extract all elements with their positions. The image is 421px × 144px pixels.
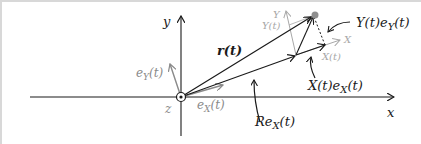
label-r: r(t) [217, 43, 242, 58]
label-XeX: X(t)eX(t) [307, 78, 363, 95]
label-rot-X-axis: X [343, 34, 352, 45]
label-YeY: Y(t)eY(t) [356, 15, 410, 32]
z-axis-label: z [164, 102, 172, 116]
rotating-frame-diagram: y x z r(t) ReX(t) X(t)eX(t) Y(t)eY(t) eX… [0, 0, 421, 144]
particle-point [312, 12, 319, 19]
y-axis-label: y [162, 14, 171, 29]
pointer-arrow-YeY [328, 22, 350, 32]
label-rot-Y-coord: Y(t) [262, 20, 281, 31]
label-rot-Y-axis: Y [273, 9, 281, 20]
pointer-arrow-XeX [311, 57, 316, 78]
label-rot-X-coord: X(t) [321, 51, 341, 62]
label-eY: eY(t) [136, 66, 164, 82]
unit-vector-eY [170, 64, 181, 97]
vector-Y-eY [296, 17, 313, 55]
label-ReX: ReX(t) [254, 114, 295, 131]
x-axis-label: x [387, 105, 395, 120]
label-eX: eX(t) [197, 98, 225, 114]
dotted-projection [314, 17, 325, 45]
z-axis-out-of-page-icon [177, 93, 186, 102]
